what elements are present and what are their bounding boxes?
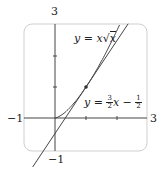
line-eq-mid: x − bbox=[113, 96, 135, 109]
tangent-point bbox=[84, 85, 88, 89]
curve-eq-radicand: x bbox=[110, 31, 116, 45]
frac-den: 2 bbox=[135, 103, 141, 110]
x-min-label: −1 bbox=[7, 113, 23, 124]
line-equation: y = 32x − 12 bbox=[84, 95, 142, 110]
line-eq-prefix: y = bbox=[84, 96, 106, 109]
y-min-label: −1 bbox=[48, 154, 64, 165]
plot-area bbox=[0, 0, 165, 170]
x-max-label: 3 bbox=[150, 113, 157, 124]
sqrt-sign: √ bbox=[103, 32, 110, 45]
fraction-1-2: 12 bbox=[135, 95, 141, 110]
y-max-label: 3 bbox=[51, 6, 58, 17]
curve-equation: y = x√x bbox=[74, 33, 116, 44]
curve-eq-prefix: y = x bbox=[74, 32, 103, 45]
